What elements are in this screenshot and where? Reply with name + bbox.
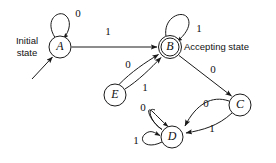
edge-label-c-to-d-0: 0 — [203, 97, 209, 109]
state-label-c: C — [236, 97, 245, 111]
edge-label-e-to-b-1: 1 — [142, 81, 148, 93]
edge-label-d-to-d-1: 1 — [133, 134, 139, 146]
edge-label-a-to-b: 1 — [105, 25, 111, 37]
edge-a-to-a — [51, 14, 69, 39]
state-label-a: A — [55, 39, 64, 53]
edge-b-to-c — [179, 56, 232, 97]
edge-label-a-to-a: 0 — [75, 7, 81, 19]
edge-label-b-to-b: 1 — [196, 22, 202, 34]
accepting-state-annotation: Accepting state — [184, 41, 249, 52]
edge-label-c-to-d-1: 1 — [209, 122, 215, 134]
edge-label-b-to-c: 0 — [210, 63, 216, 75]
edge-label-d-to-d-0: 0 — [140, 101, 146, 113]
edge-d-to-d-1 — [142, 132, 162, 145]
state-label-b: B — [166, 39, 174, 53]
initial-state-annotation-line1: Initial — [16, 35, 38, 46]
state-diagram-canvas: A B E C D 0 1 1 0 0 1 0 1 0 1 Initial st… — [0, 0, 276, 163]
edge-label-e-to-b-0: 0 — [125, 58, 131, 70]
state-label-e: E — [110, 87, 119, 101]
start-arrow — [32, 57, 53, 79]
state-machine-diagram: A B E C D 0 1 1 0 0 1 0 1 0 1 Initial st… — [0, 0, 276, 163]
state-label-d: D — [167, 129, 177, 143]
initial-state-annotation-line2: state — [17, 47, 38, 58]
